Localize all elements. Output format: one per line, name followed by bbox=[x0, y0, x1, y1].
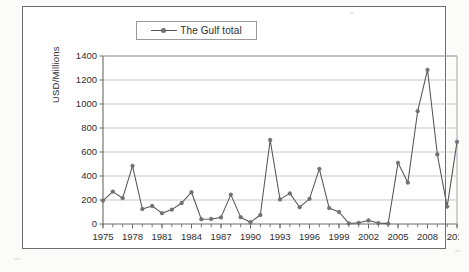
y-axis-tick-labels: 0200400600800100012001400 bbox=[76, 50, 97, 229]
svg-text:1200: 1200 bbox=[76, 74, 97, 85]
svg-text:200: 200 bbox=[81, 194, 97, 205]
svg-text:0: 0 bbox=[92, 218, 97, 229]
figure-frame: The Gulf total USD/Millions 020040060080… bbox=[22, 6, 446, 249]
scan-artifact bbox=[14, 258, 20, 260]
y-axis-title: USD/Millions bbox=[50, 23, 61, 103]
plot-area: 0200400600800100012001400 19751978198119… bbox=[69, 49, 459, 249]
svg-text:1978: 1978 bbox=[122, 231, 143, 242]
series-the-gulf-total bbox=[101, 68, 459, 226]
svg-text:2011: 2011 bbox=[447, 231, 459, 242]
svg-text:1996: 1996 bbox=[299, 231, 320, 242]
legend-line-marker-icon bbox=[151, 26, 177, 35]
legend-series-label: The Gulf total bbox=[180, 25, 241, 36]
svg-text:1000: 1000 bbox=[76, 98, 97, 109]
svg-text:1400: 1400 bbox=[76, 50, 97, 61]
svg-text:600: 600 bbox=[81, 146, 97, 157]
svg-text:800: 800 bbox=[81, 122, 97, 133]
x-axis-ticks bbox=[103, 224, 457, 229]
svg-text:1999: 1999 bbox=[328, 231, 349, 242]
svg-text:2008: 2008 bbox=[417, 231, 438, 242]
chart-legend: The Gulf total bbox=[136, 21, 257, 40]
svg-text:1987: 1987 bbox=[210, 231, 231, 242]
svg-text:1990: 1990 bbox=[240, 231, 261, 242]
svg-text:2002: 2002 bbox=[358, 231, 379, 242]
scan-artifact bbox=[350, 12, 354, 14]
svg-text:400: 400 bbox=[81, 170, 97, 181]
x-axis-tick-labels: 1975197819811984198719901993199619992002… bbox=[92, 231, 459, 242]
svg-text:1993: 1993 bbox=[269, 231, 290, 242]
svg-text:2005: 2005 bbox=[387, 231, 408, 242]
line-chart-svg: 0200400600800100012001400 19751978198119… bbox=[69, 49, 459, 249]
svg-text:1981: 1981 bbox=[151, 231, 172, 242]
grid-lines bbox=[103, 56, 457, 200]
svg-text:1975: 1975 bbox=[92, 231, 113, 242]
scan-artifact bbox=[455, 250, 460, 252]
svg-text:1984: 1984 bbox=[181, 231, 202, 242]
